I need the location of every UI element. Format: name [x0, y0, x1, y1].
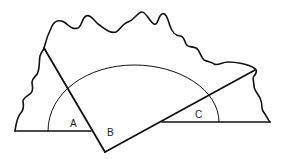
- label-angle-a: A: [70, 118, 77, 129]
- angle-diagram: A B C: [0, 0, 284, 159]
- label-angle-b: B: [107, 127, 114, 138]
- label-angle-c: C: [195, 109, 202, 120]
- torn-edge-outline: [15, 12, 270, 131]
- right-angle-arm-left: [44, 48, 105, 152]
- right-angle-arm-right: [105, 70, 255, 152]
